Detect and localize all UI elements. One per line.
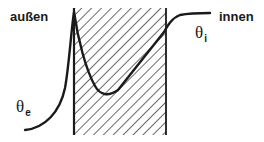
- theta-inside-symbol: θi: [195, 24, 207, 44]
- theta-exterior-subscript: e: [25, 107, 31, 118]
- theta-inside-subscript: i: [204, 33, 207, 44]
- theta-exterior-symbol: θe: [16, 98, 31, 118]
- temperature-profile-diagram: außen innen θi θe: [0, 0, 264, 142]
- theta-inside-base: θ: [195, 23, 203, 42]
- theta-exterior-base: θ: [16, 97, 24, 116]
- outside-label: außen: [10, 10, 48, 23]
- wall-hatched-region: [73, 8, 166, 135]
- inside-label: innen: [219, 10, 254, 23]
